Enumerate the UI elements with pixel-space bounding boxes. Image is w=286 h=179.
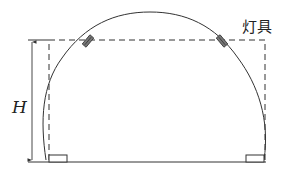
height-label: H <box>11 97 28 117</box>
tunnel-arch <box>43 12 266 160</box>
curb-left <box>49 155 67 162</box>
lamp-fixture-right-icon <box>216 35 228 47</box>
curb-right <box>246 155 264 162</box>
tunnel-diagram: H 灯具 <box>0 0 286 179</box>
fixture-label: 灯具 <box>242 18 272 36</box>
lamp-fixture-left-icon <box>82 35 94 47</box>
lighting-envelope-dashed <box>49 40 265 160</box>
